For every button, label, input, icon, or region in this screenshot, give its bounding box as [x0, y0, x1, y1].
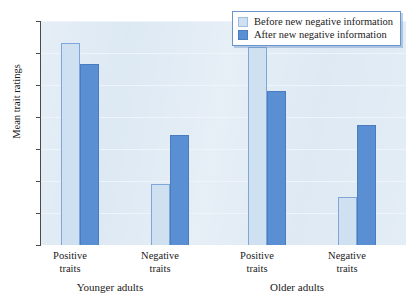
bar-after-older-negative	[357, 125, 376, 245]
legend-swatch-before-icon	[238, 17, 248, 27]
bar-after-older-positive	[267, 91, 286, 245]
legend-item-after: After new negative information	[238, 28, 393, 41]
x-category-line2: traits	[25, 263, 115, 276]
x-category-line1: Negative	[302, 250, 392, 263]
legend-item-before: Before new negative information	[238, 15, 393, 28]
bar-after-younger-negative	[170, 135, 189, 245]
legend-label-before: Before new negative information	[254, 16, 393, 27]
x-category-line1: Negative	[115, 250, 205, 263]
x-group-label-older-adults: Older adults	[212, 281, 382, 294]
bar-chart-figure: Mean trait ratings 7 6 5 4 3 2 1 0	[0, 0, 420, 308]
bar-before-older-positive	[248, 47, 267, 245]
x-category-line2: traits	[115, 263, 205, 276]
x-category-line2: traits	[302, 263, 392, 276]
y-tick-mark-0	[36, 245, 41, 246]
plot-area: Before new negative information After ne…	[41, 21, 406, 245]
x-category-line1: Positive	[212, 250, 302, 263]
y-axis-title: Mean trait ratings	[11, 42, 22, 162]
bar-before-younger-positive	[61, 43, 80, 245]
x-category-line1: Positive	[25, 250, 115, 263]
legend-swatch-after-icon	[238, 30, 248, 40]
x-category-older-positive: Positive traits	[212, 250, 302, 275]
x-category-younger-positive: Positive traits	[25, 250, 115, 275]
cropped-caption	[120, 0, 360, 1]
bar-before-older-negative	[338, 197, 357, 245]
legend-label-after: After new negative information	[254, 29, 387, 40]
x-group-label-younger-adults: Younger adults	[25, 281, 195, 294]
x-category-younger-negative: Negative traits	[115, 250, 205, 275]
bar-after-younger-positive	[80, 64, 99, 245]
x-category-line2: traits	[212, 263, 302, 276]
legend: Before new negative information After ne…	[232, 11, 401, 46]
gridline-6	[41, 53, 406, 54]
bar-before-younger-negative	[151, 184, 170, 245]
x-category-older-negative: Negative traits	[302, 250, 392, 275]
